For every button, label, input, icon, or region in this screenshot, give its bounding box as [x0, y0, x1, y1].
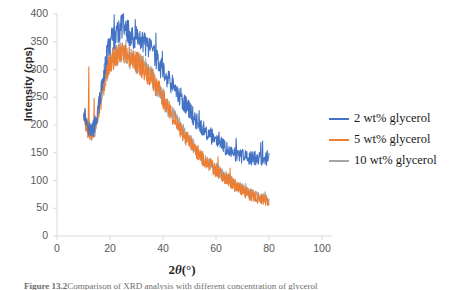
x-axis-title-suffix: (°) [182, 262, 196, 277]
y-tick-label: 0 [18, 229, 48, 241]
figure-caption-text: Comparison of XRD analysis with differen… [67, 281, 317, 290]
legend-item[interactable]: 10 wt% glycerol [329, 150, 457, 171]
legend-item-label: 2 wt% glycerol [354, 111, 430, 126]
x-axis-title: 2θ(°) [57, 262, 307, 278]
x-tick-label: 60 [201, 242, 231, 254]
y-tick-label: 200 [18, 118, 48, 130]
chart-legend: 2 wt% glycerol5 wt% glycerol10 wt% glyce… [329, 108, 457, 171]
legend-item-label: 5 wt% glycerol [354, 132, 430, 147]
x-tick-label: 100 [307, 242, 337, 254]
series-group [84, 14, 270, 206]
x-tick-label: 40 [148, 242, 178, 254]
series-line-1 [84, 14, 270, 166]
y-tick-label: 50 [18, 201, 48, 213]
legend-color-swatch [329, 118, 349, 120]
y-tick-label: 350 [18, 35, 48, 47]
legend-color-swatch [329, 160, 349, 162]
x-tick-label: 80 [254, 242, 284, 254]
x-tick-label: 0 [42, 242, 72, 254]
y-tick-label: 250 [18, 90, 48, 102]
y-tick-label: 400 [18, 7, 48, 19]
legend-color-swatch [329, 139, 349, 141]
x-axis-title-theta: θ [175, 262, 182, 277]
figure-caption: Figure 13.2Comparison of XRD analysis wi… [24, 281, 444, 290]
legend-item[interactable]: 2 wt% glycerol [329, 108, 457, 129]
figure-caption-number: Figure 13.2 [24, 281, 67, 290]
y-tick-label: 150 [18, 146, 48, 158]
legend-item-label: 10 wt% glycerol [354, 153, 437, 168]
x-tick-label: 20 [95, 242, 125, 254]
figure-container: Intensity (cps) 2θ(°) 400350300250200150… [0, 0, 459, 290]
legend-item[interactable]: 5 wt% glycerol [329, 129, 457, 150]
y-tick-label: 300 [18, 63, 48, 75]
y-tick-label: 100 [18, 174, 48, 186]
series-line-2 [84, 43, 270, 205]
